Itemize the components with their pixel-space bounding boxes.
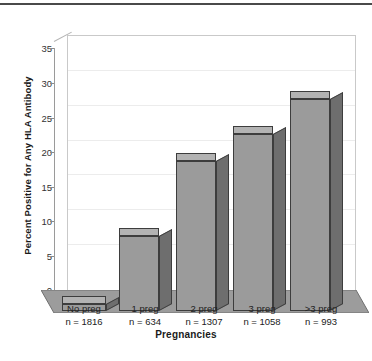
y-tick-mark-20 bbox=[50, 152, 54, 153]
x-tick-gt3-preg-label: >3 preg bbox=[305, 303, 338, 314]
x-tick-3-preg-label: 3 preg bbox=[249, 303, 276, 314]
y-tick-label-30: 30 bbox=[26, 78, 52, 89]
bar-3-preg bbox=[233, 126, 273, 311]
y-axis-front-line bbox=[54, 48, 55, 290]
bar-gt3-preg bbox=[290, 91, 330, 311]
gridline-30 bbox=[67, 70, 355, 71]
y-tick-mark-10 bbox=[50, 221, 54, 222]
y-tick-label-15: 15 bbox=[26, 182, 52, 193]
y-tick-mark-5 bbox=[50, 256, 54, 257]
y-tick-label-35: 35 bbox=[26, 43, 52, 54]
y-tick-label-5: 5 bbox=[26, 251, 52, 262]
bar-2-preg bbox=[176, 153, 216, 311]
x-axis-title: Pregnancies bbox=[0, 329, 372, 340]
y-tick-mark-25 bbox=[50, 118, 54, 119]
y-axis-back-line bbox=[67, 35, 68, 290]
bar-1-preg bbox=[119, 228, 159, 311]
y-tick-label-10: 10 bbox=[26, 216, 52, 227]
y-tick-label-25: 25 bbox=[26, 113, 52, 124]
x-tick-gt3-preg-count: n = 993 bbox=[283, 316, 359, 327]
y-tick-mark-15 bbox=[50, 187, 54, 188]
x-tick-gt3-preg: >3 preg n = 993 bbox=[283, 303, 359, 327]
y-tick-label-20: 20 bbox=[26, 147, 52, 158]
bar-chart: Percent Positive for Any HLA Antibody 35… bbox=[0, 0, 372, 361]
y-tick-mark-30 bbox=[50, 83, 54, 84]
y-tick-mark-35 bbox=[50, 48, 54, 49]
x-tick-2-preg-label: 2 preg bbox=[191, 303, 218, 314]
x-tick-1-preg-label: 1 preg bbox=[132, 303, 159, 314]
x-tick-no-preg-label: No preg bbox=[67, 303, 101, 314]
